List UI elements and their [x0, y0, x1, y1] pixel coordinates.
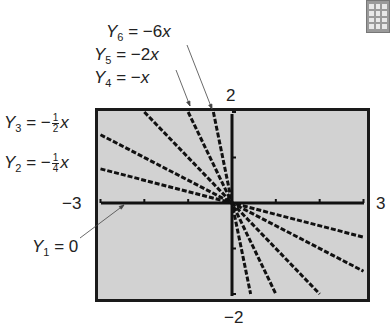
- graph-overlay: [0, 0, 391, 330]
- plot-area: [101, 112, 365, 296]
- pointer-arrows: [80, 45, 212, 238]
